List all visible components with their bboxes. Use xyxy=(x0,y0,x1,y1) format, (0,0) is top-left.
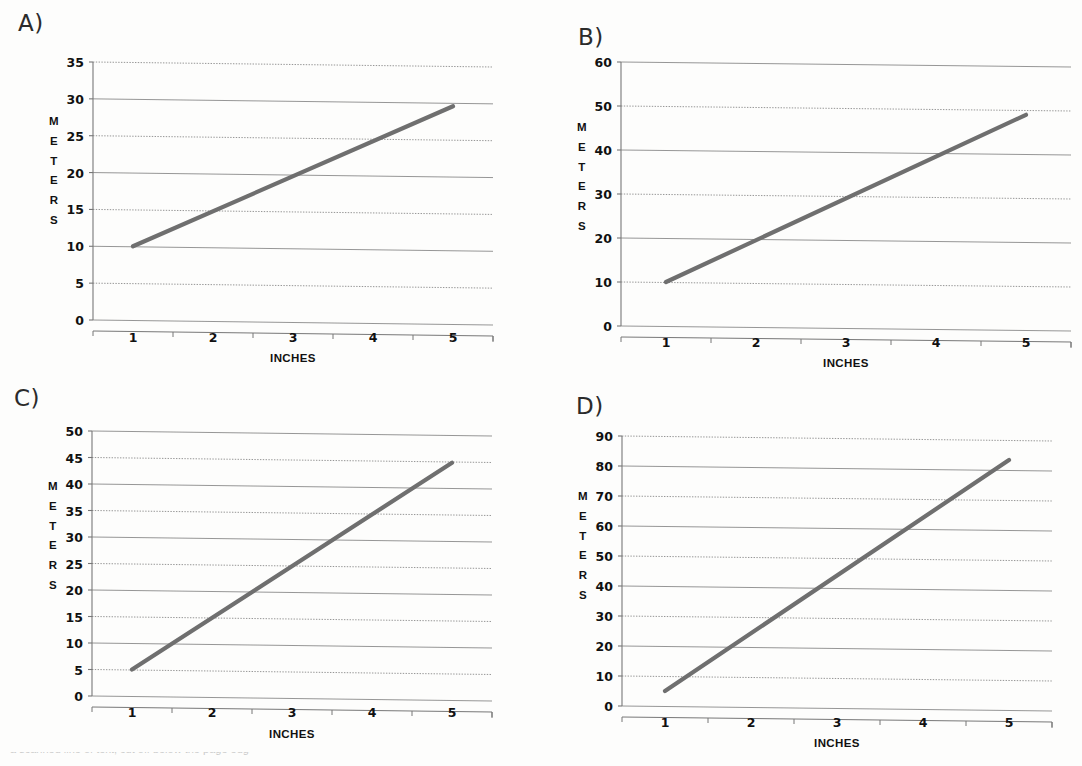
x-tick-label: 2 xyxy=(209,330,218,345)
y-tick-label: 60 xyxy=(595,55,612,70)
gridline xyxy=(621,238,1071,243)
y-axis-tick-labels-d: 9080706050403020100 xyxy=(541,436,613,706)
x-tick-label: 5 xyxy=(449,330,458,345)
gridline xyxy=(92,643,492,648)
gridline xyxy=(622,466,1052,471)
y-tick-label: 5 xyxy=(75,276,84,291)
panel-label-c: C) xyxy=(14,385,40,411)
x-tick-label: 5 xyxy=(1005,715,1014,730)
gridline xyxy=(622,706,1052,711)
x-tick-label: 4 xyxy=(932,335,941,350)
y-axis-tick-labels-b: 6050403020100 xyxy=(541,62,612,326)
gridline xyxy=(92,537,492,542)
gridline xyxy=(92,696,492,701)
gridline xyxy=(621,326,1071,331)
y-tick-label: 45 xyxy=(66,450,83,465)
y-tick-label: 40 xyxy=(595,143,612,158)
y-tick-label: 15 xyxy=(67,202,84,217)
y-tick-label: 0 xyxy=(603,319,612,334)
y-tick-label: 80 xyxy=(596,459,613,474)
x-tick-label: 3 xyxy=(842,335,851,350)
gridline xyxy=(92,484,492,489)
y-tick-label: 10 xyxy=(596,669,613,684)
gridline xyxy=(621,282,1071,287)
y-tick-label: 60 xyxy=(596,519,613,534)
chart-panel-d: D) METERS 9080706050403020100 12345 INCH… xyxy=(541,383,1082,766)
x-tick-label: 4 xyxy=(919,715,928,730)
chart-panel-c: C) METERS 50454035302520151050 12345 INC… xyxy=(0,383,541,766)
y-tick-label: 10 xyxy=(67,239,84,254)
data-series-line xyxy=(665,460,1009,691)
plot-area-a xyxy=(93,62,493,320)
panel-label-b: B) xyxy=(578,24,604,50)
x-axis-title-c: INCHES xyxy=(269,728,315,740)
x-tick-label: 1 xyxy=(661,715,670,730)
gridline xyxy=(93,62,493,67)
y-tick-label: 50 xyxy=(596,549,613,564)
x-tick-label: 5 xyxy=(448,705,457,720)
chart-canvas-d xyxy=(622,436,1052,722)
gridline xyxy=(622,586,1052,591)
gridline xyxy=(622,436,1052,441)
y-tick-label: 15 xyxy=(66,609,83,624)
y-tick-label: 10 xyxy=(66,636,83,651)
y-tick-label: 90 xyxy=(596,429,613,444)
y-tick-label: 0 xyxy=(604,699,613,714)
gridline xyxy=(93,283,493,288)
y-tick-label: 35 xyxy=(67,55,84,70)
y-tick-label: 50 xyxy=(66,424,83,439)
scan-artifact-line: a scanned line of text, cut off below th… xyxy=(10,752,250,755)
y-axis-tick-labels-c: 50454035302520151050 xyxy=(0,431,83,696)
y-tick-label: 35 xyxy=(66,503,83,518)
y-tick-label: 40 xyxy=(66,477,83,492)
gridline xyxy=(621,62,1071,67)
y-tick-label: 20 xyxy=(67,165,84,180)
gridline xyxy=(621,106,1071,111)
y-tick-label: 30 xyxy=(596,609,613,624)
plot-area-d xyxy=(622,436,1052,706)
gridline xyxy=(93,136,493,141)
y-tick-label: 5 xyxy=(74,662,83,677)
gridline xyxy=(92,617,492,622)
x-tick-label: 5 xyxy=(1022,335,1031,350)
gridline xyxy=(92,590,492,595)
x-tick-label: 1 xyxy=(128,705,137,720)
gridline xyxy=(93,209,493,214)
x-tick-label: 2 xyxy=(208,705,217,720)
gridline xyxy=(92,511,492,516)
panel-label-a: A) xyxy=(18,10,44,36)
y-tick-label: 20 xyxy=(66,583,83,598)
y-tick-label: 25 xyxy=(67,128,84,143)
x-tick-label: 2 xyxy=(747,715,756,730)
y-tick-label: 40 xyxy=(596,579,613,594)
y-tick-label: 25 xyxy=(66,556,83,571)
y-tick-label: 10 xyxy=(595,275,612,290)
y-tick-label: 0 xyxy=(75,313,84,328)
gridline xyxy=(622,616,1052,621)
gridline xyxy=(622,526,1052,531)
worksheet-page: A) METERS 35302520151050 12345 INCHES B)… xyxy=(0,0,1082,766)
plot-area-b xyxy=(621,62,1071,326)
gridline xyxy=(622,496,1052,501)
x-axis-title-a: INCHES xyxy=(270,352,316,364)
x-tick-label: 4 xyxy=(368,705,377,720)
chart-canvas-a xyxy=(93,62,493,336)
x-tick-label: 3 xyxy=(833,715,842,730)
chart-panel-b: B) METERS 6050403020100 12345 INCHES xyxy=(541,0,1082,383)
chart-panel-a: A) METERS 35302520151050 12345 INCHES xyxy=(0,0,541,383)
scan-artifact-text: a scanned line of text, cut off below th… xyxy=(10,752,250,766)
gridline xyxy=(621,150,1071,155)
y-tick-label: 70 xyxy=(596,489,613,504)
gridline xyxy=(92,458,492,463)
panel-label-d: D) xyxy=(576,393,604,419)
y-tick-label: 20 xyxy=(596,639,613,654)
data-series-line xyxy=(666,115,1026,282)
x-axis-title-d: INCHES xyxy=(814,737,860,749)
x-tick-label: 1 xyxy=(129,330,138,345)
chart-canvas-c xyxy=(92,431,492,712)
gridline xyxy=(93,246,493,251)
y-axis-tick-labels-a: 35302520151050 xyxy=(0,62,84,320)
x-tick-label: 1 xyxy=(662,335,671,350)
y-tick-label: 30 xyxy=(67,91,84,106)
gridline xyxy=(93,99,493,104)
